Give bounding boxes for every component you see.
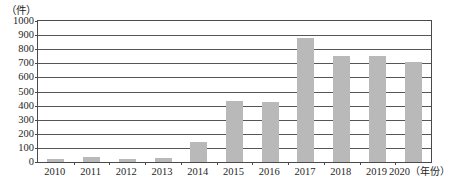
bar-chart: （件） 01002003004005006007008009001000 201… [0,0,464,195]
x-axis-tick-mark [109,162,110,165]
x-axis-tick-mark [395,162,396,165]
y-axis-tick-label: 300 [0,114,34,125]
x-axis-labels-group: 2010201120122013201420152016201720182019… [37,166,464,186]
bar [226,101,243,162]
x-axis-tick-label-text: 2014 [187,166,208,177]
y-axis-tick-mark [35,35,38,36]
x-axis-tick-mark [288,162,289,165]
x-axis-tick-mark [252,162,253,165]
gridline [38,49,431,50]
x-axis-tick-label: 2013 [152,166,173,179]
x-axis-tick-label: 2010 [44,166,65,179]
x-axis-tick-label-text: 2017 [294,166,315,177]
plot-area: 01002003004005006007008009001000 [37,20,432,163]
x-axis-tick-mark [324,162,325,165]
y-axis-tick-mark [35,77,38,78]
x-axis-tick-mark [145,162,146,165]
x-axis-tick-label: 2014 [187,166,208,179]
bar [83,157,100,162]
x-axis-tick-label-text: 2011 [80,166,101,177]
y-axis-tick-mark [35,49,38,50]
y-axis-tick-label: 100 [0,143,34,154]
y-axis-tick-mark [35,63,38,64]
y-axis-tick-mark [35,148,38,149]
bar [405,62,422,162]
y-axis-tick-label: 600 [0,72,34,83]
x-axis-tick-label-text: 2015 [223,166,244,177]
x-axis-tick-label: 2011 [80,166,101,179]
y-axis-tick-label: 0 [0,157,34,168]
y-axis-tick-mark [35,134,38,135]
y-axis-tick-mark [35,21,38,22]
y-axis-tick-label: 500 [0,86,34,97]
x-axis-tick-label-text: 2020 [389,166,410,177]
bar [333,56,350,162]
x-axis-tick-label: 2012 [116,166,137,179]
bar [190,142,207,162]
x-axis-tick-label-text: 2010 [44,166,65,177]
x-axis-tick-label-text: 2018 [330,166,351,177]
y-axis-tick-label: 1000 [0,16,34,27]
x-axis-tick-label: 2018 [330,166,351,179]
bar [47,159,64,162]
y-axis-tick-label: 200 [0,129,34,140]
y-axis-tick-mark [35,162,38,163]
x-axis-tick-mark [217,162,218,165]
x-axis-tick-label: 2020（年份） [389,166,450,179]
x-axis-tick-label: 2016 [259,166,280,179]
x-axis-tick-label: 2017 [294,166,315,179]
x-axis-tick-mark [74,162,75,165]
y-axis-tick-label: 700 [0,58,34,69]
x-axis-unit-label: （年份） [410,166,450,177]
y-axis-tick-mark [35,92,38,93]
bar [297,38,314,162]
y-axis-tick-label: 800 [0,44,34,55]
x-axis-tick-mark [181,162,182,165]
bar [369,56,386,162]
y-axis-tick-label: 900 [0,30,34,41]
bar [262,102,279,162]
x-axis-tick-label: 2015 [223,166,244,179]
x-axis-tick-label: 2019 [366,166,387,179]
y-axis-tick-mark [35,120,38,121]
y-axis-tick-mark [35,106,38,107]
bar [119,159,136,162]
x-axis-tick-label-text: 2013 [152,166,173,177]
x-axis-tick-label-text: 2016 [259,166,280,177]
x-axis-tick-label-text: 2019 [366,166,387,177]
y-axis-tick-label: 400 [0,100,34,111]
gridline [38,35,431,36]
x-axis-tick-label-text: 2012 [116,166,137,177]
x-axis-tick-mark [360,162,361,165]
bar [155,158,172,162]
